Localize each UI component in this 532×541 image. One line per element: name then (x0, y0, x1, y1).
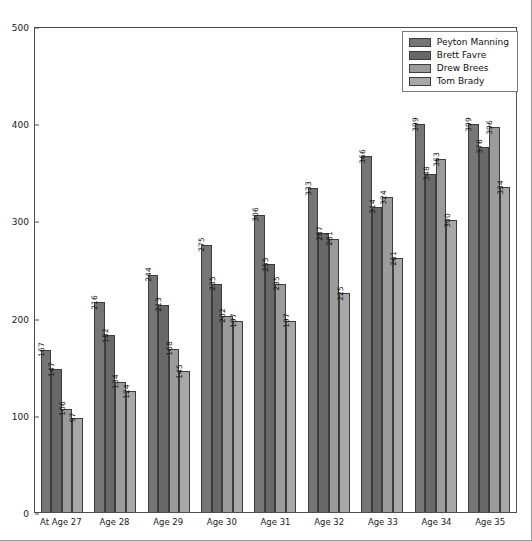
bar-value-label: 97 (70, 413, 78, 423)
bar-value-label: 314 (370, 200, 378, 214)
bar[interactable]: 145 (179, 371, 190, 512)
bar[interactable]: 225 (339, 293, 350, 512)
bar-value-label: 306 (252, 207, 260, 221)
legend-swatch-icon (409, 64, 431, 73)
bar[interactable]: 300 (446, 220, 457, 512)
bar-group: 244213168145 (142, 28, 195, 512)
bar[interactable]: 281 (329, 239, 340, 512)
bar-slot: 396 (489, 28, 500, 512)
bar-value-label: 396 (487, 120, 495, 134)
bar[interactable]: 134 (115, 382, 126, 512)
y-axis-tick-label: 400 (12, 120, 29, 130)
x-axis-tick-label: Age 34 (410, 514, 464, 532)
bar-slot: 376 (479, 28, 490, 512)
bar-groups: 1671471069721618213412424421316814527523… (35, 28, 516, 512)
bar-value-label: 366 (359, 149, 367, 163)
bar-value-label: 255 (263, 257, 271, 271)
bar-group: 399376396334 (463, 28, 516, 512)
bar-slot: 225 (339, 28, 350, 512)
bar-slot: 363 (436, 28, 447, 512)
bar-value-label: 376 (476, 139, 484, 153)
bar-slot: 244 (148, 28, 159, 512)
bar-group: 366314324261 (356, 28, 409, 512)
bar-slot: 275 (201, 28, 212, 512)
bar-value-label: 324 (380, 190, 388, 204)
bar-slot: 216 (94, 28, 105, 512)
bar-value-label: 300 (444, 213, 452, 227)
bar[interactable]: 314 (372, 207, 383, 512)
bar[interactable]: 399 (468, 124, 479, 512)
bar-slot: 197 (286, 28, 297, 512)
bar-group: 216182134124 (88, 28, 141, 512)
bar-slot: 300 (446, 28, 457, 512)
bar-value-label: 225 (337, 286, 345, 300)
chart-legend: Peyton ManningBrett FavreDrew BreesTom B… (402, 31, 518, 92)
bar-value-label: 281 (327, 232, 335, 246)
plot-area: 0100200300400500 16714710697216182134124… (34, 27, 517, 513)
bar-slot: 202 (222, 28, 233, 512)
bar-group: 399348363300 (409, 28, 462, 512)
bar[interactable]: 348 (425, 174, 436, 512)
bar-value-label: 168 (166, 342, 174, 356)
legend-entry[interactable]: Brett Favre (409, 50, 509, 60)
legend-entry[interactable]: Tom Brady (409, 76, 509, 86)
bar[interactable]: 106 (62, 409, 73, 512)
bar-group: 275235202197 (195, 28, 248, 512)
bar[interactable]: 376 (479, 147, 490, 512)
bar[interactable]: 182 (105, 335, 116, 512)
bar[interactable]: 363 (436, 159, 447, 512)
bar-slot: 314 (372, 28, 383, 512)
legend-entry[interactable]: Drew Brees (409, 63, 509, 73)
bar[interactable]: 324 (382, 197, 393, 512)
bar[interactable]: 255 (265, 264, 276, 512)
bar-value-label: 134 (113, 375, 121, 389)
bar[interactable]: 147 (51, 369, 62, 512)
bar-slot: 334 (500, 28, 511, 512)
y-axis-tick-label: 200 (12, 315, 29, 325)
bar-slot: 168 (169, 28, 180, 512)
x-axis-tick-label: Age 32 (302, 514, 356, 532)
legend-swatch-icon (409, 51, 431, 60)
bar-value-label: 213 (156, 298, 164, 312)
bar[interactable]: 287 (318, 233, 329, 512)
legend-entry[interactable]: Peyton Manning (409, 37, 509, 47)
bar-value-label: 348 (423, 167, 431, 181)
bar-slot: 167 (41, 28, 52, 512)
bar-value-label: 145 (177, 364, 185, 378)
bar-value-label: 167 (38, 343, 46, 357)
x-axis-tick-label: Age 29 (141, 514, 195, 532)
bar[interactable]: 197 (233, 321, 244, 512)
bar-slot: 366 (361, 28, 372, 512)
bar-value-label: 235 (209, 276, 217, 290)
bar[interactable]: 213 (158, 305, 169, 512)
bar-value-label: 202 (220, 308, 228, 322)
bar-slot: 399 (468, 28, 479, 512)
bar-value-label: 399 (466, 117, 474, 131)
bar-slot: 261 (393, 28, 404, 512)
x-axis-tick-label: Age 31 (249, 514, 303, 532)
bar[interactable]: 399 (415, 124, 426, 512)
x-axis-tick-label: Age 30 (195, 514, 249, 532)
bar-slot: 255 (265, 28, 276, 512)
bar-group: 16714710697 (35, 28, 88, 512)
bar-slot: 324 (382, 28, 393, 512)
bar[interactable]: 261 (393, 258, 404, 512)
legend-label: Tom Brady (437, 76, 485, 86)
bar[interactable]: 124 (126, 391, 137, 512)
bar-value-label: 235 (273, 276, 281, 290)
bar-group: 333287281225 (302, 28, 355, 512)
bar[interactable]: 97 (72, 418, 83, 512)
bar-value-label: 275 (199, 238, 207, 252)
bar-value-label: 363 (434, 152, 442, 166)
bar-slot: 281 (329, 28, 340, 512)
legend-label: Drew Brees (437, 63, 489, 73)
bar[interactable]: 334 (500, 187, 511, 512)
x-axis-tick-label: Age 28 (88, 514, 142, 532)
legend-swatch-icon (409, 38, 431, 47)
bar[interactable]: 197 (286, 321, 297, 512)
bar-slot: 147 (51, 28, 62, 512)
x-axis-tick-label: Age 35 (463, 514, 517, 532)
y-axis-tick-label: 100 (12, 412, 29, 422)
bar-value-label: 244 (145, 268, 153, 282)
bar[interactable]: 202 (222, 316, 233, 512)
